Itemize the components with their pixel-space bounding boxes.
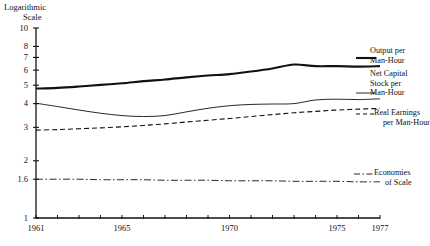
y-tick-label: 2 bbox=[2, 155, 28, 165]
y-tick-label: 3 bbox=[2, 122, 28, 132]
x-tick-label: 1970 bbox=[210, 223, 250, 233]
series-label-output-line2: Man-Hour bbox=[370, 56, 405, 65]
series-label-economies-of-scale: Economies of Scale bbox=[374, 168, 412, 187]
axes bbox=[36, 28, 380, 218]
series-label-capital-line3: Man-Hour bbox=[370, 88, 405, 97]
series-label-net-capital-stock: Net Capital Stock per Man-Hour bbox=[370, 69, 408, 98]
chart-container: Logarithmic Scale 1087654321.61 19611965… bbox=[0, 0, 430, 246]
series-label-earnings-line1: Real Earnings bbox=[374, 108, 420, 117]
series-line-3 bbox=[36, 179, 380, 182]
series-label-capital-line2: Stock per bbox=[370, 79, 401, 88]
series-label-output-line1: Output per bbox=[370, 46, 405, 55]
y-tick-label: 10 bbox=[2, 23, 28, 33]
series-label-economies-line1: Economies bbox=[374, 168, 410, 177]
y-tick-label: 5 bbox=[2, 80, 28, 90]
y-tick-label: 8 bbox=[2, 41, 28, 51]
series-label-economies-line2: of Scale bbox=[385, 178, 412, 188]
series-label-capital-line1: Net Capital bbox=[370, 69, 408, 78]
y-tick-label: 4 bbox=[2, 98, 28, 108]
x-tick-label: 1977 bbox=[360, 223, 400, 233]
y-tick-label: 6 bbox=[2, 65, 28, 75]
series-line-0 bbox=[36, 65, 380, 89]
x-tick-label: 1961 bbox=[16, 223, 56, 233]
y-tick-label: 7 bbox=[2, 52, 28, 62]
series-line-1 bbox=[36, 99, 380, 117]
series-label-real-earnings: Real Earnings per Man-Hour bbox=[374, 108, 430, 127]
plot-area bbox=[0, 0, 430, 246]
series-lines bbox=[36, 65, 380, 182]
x-tick-label: 1965 bbox=[102, 223, 142, 233]
x-tick-label: 1975 bbox=[317, 223, 357, 233]
y-tick-label: 1.6 bbox=[2, 174, 28, 184]
series-label-output-per-man-hour: Output per Man-Hour bbox=[370, 46, 405, 65]
series-label-earnings-line2: per Man-Hour bbox=[383, 118, 430, 128]
y-tick-label: 1 bbox=[2, 213, 28, 223]
